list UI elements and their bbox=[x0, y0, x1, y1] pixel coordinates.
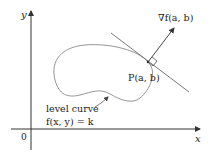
curve-label-line1: level curve bbox=[46, 103, 99, 114]
point-p bbox=[147, 61, 150, 64]
tangent-line bbox=[111, 33, 189, 92]
origin-label: 0 bbox=[21, 132, 27, 142]
curve-label-line2: f(x, y) = k bbox=[46, 116, 94, 127]
x-axis-label: x bbox=[195, 133, 201, 144]
gradient-label: ∇f(a, b) bbox=[158, 12, 193, 23]
level-curve-diagram: y x 0 ∇f(a, b) P(a, b) level curve f(x, … bbox=[0, 0, 209, 157]
curve-label-leader bbox=[95, 97, 108, 107]
y-axis-label: y bbox=[20, 9, 27, 20]
gradient-arrow bbox=[148, 28, 174, 62]
point-label: P(a, b) bbox=[128, 72, 160, 83]
